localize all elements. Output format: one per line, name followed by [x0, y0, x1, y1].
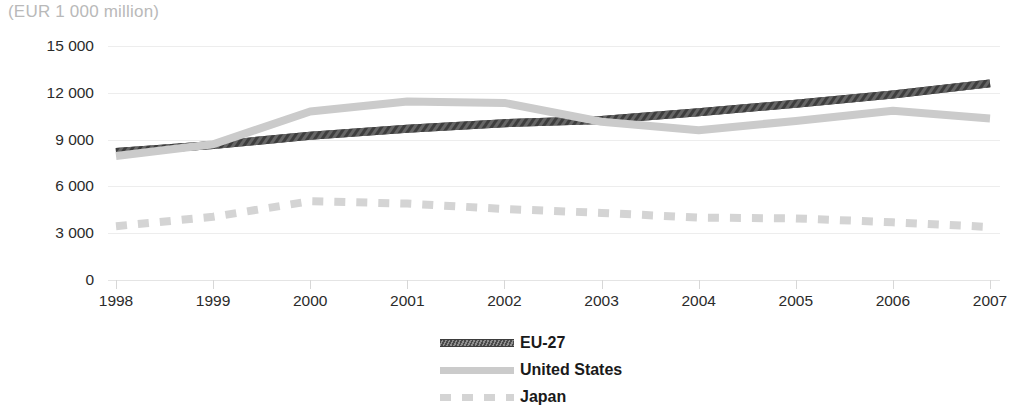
legend-item-japan[interactable]: Japan: [0, 384, 1022, 410]
line-solid-gray-swatch: [440, 357, 514, 383]
series-line-united-states: [116, 101, 990, 156]
line-chart: (EUR 1 000 million) 03 0006 0009 00012 0…: [0, 0, 1022, 419]
legend-label: United States: [520, 357, 622, 383]
line-solid-gray-swatch-line: [440, 367, 514, 374]
line-dashed-gray-swatch-line: [440, 394, 514, 401]
line-dashed-gray-swatch: [440, 384, 514, 410]
legend-item-eu-27[interactable]: EU-27: [0, 330, 1022, 356]
legend-label: Japan: [520, 384, 566, 410]
line-hatched-dark-swatch: [440, 330, 514, 356]
legend-item-united-states[interactable]: United States: [0, 357, 1022, 383]
series-line-japan: [116, 201, 990, 227]
legend-label: EU-27: [520, 330, 565, 356]
line-hatched-dark-swatch-line: [440, 339, 514, 347]
